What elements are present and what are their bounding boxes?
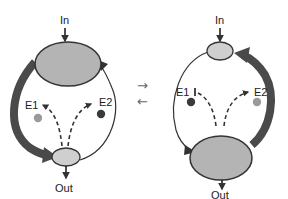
right-e2-regulation-arrow — [224, 92, 248, 126]
left-large-pool — [35, 42, 101, 86]
right-e1-label: E1 — [176, 86, 189, 98]
right-e1-dot — [187, 98, 195, 106]
diagram-canvas: In Out E1 E2 → ← In — [0, 0, 288, 199]
left-e2-label: E2 — [99, 96, 112, 108]
right-input-label: In — [215, 14, 224, 26]
right-e1-inhibition-line — [196, 92, 216, 126]
right-output-label: Out — [211, 189, 229, 199]
right-small-pool — [207, 42, 233, 60]
right-e2-dot — [253, 98, 261, 106]
left-e1-dot — [34, 114, 42, 122]
forward-transition-arrow: → — [137, 78, 148, 93]
left-e2-dot — [97, 110, 105, 118]
right-large-pool — [190, 136, 252, 180]
left-e1-regulation-arrow — [43, 105, 62, 146]
left-e2-regulation-arrow — [68, 104, 91, 146]
left-output-label: Out — [55, 182, 73, 194]
left-e1-label: E1 — [25, 99, 38, 111]
right-state: In Out E1 E2 — [174, 14, 271, 199]
reverse-transition-arrow: ← — [137, 94, 148, 109]
left-input-label: In — [60, 14, 69, 26]
transition-arrows: → ← — [137, 78, 148, 109]
left-small-pool — [52, 148, 80, 166]
right-e2-label: E2 — [254, 86, 267, 98]
left-state: In Out E1 E2 — [14, 14, 116, 194]
